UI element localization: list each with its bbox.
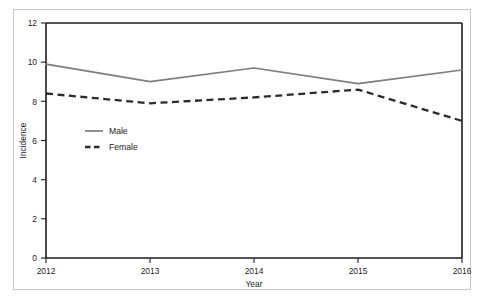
y-tick-label: 4	[32, 175, 37, 185]
y-tick-label: 8	[32, 97, 37, 107]
x-tick-label: 2013	[141, 266, 160, 276]
legend-label-male: Male	[109, 126, 128, 136]
y-tick-label: 2	[32, 214, 37, 224]
x-tick-label: 2014	[245, 266, 264, 276]
series-line-female	[46, 90, 462, 121]
chart-plot-area: 12 10 8 6 4 2 0 2012 2013 2014	[0, 0, 485, 303]
line-chart-svg: 12 10 8 6 4 2 0 2012 2013 2014	[0, 0, 485, 303]
y-tick-label: 10	[28, 57, 38, 67]
x-tick-label: 2012	[37, 266, 56, 276]
x-axis-tick-labels: 2012 2013 2014 2015 2016	[37, 266, 472, 276]
chart-legend: Male Female	[85, 126, 138, 152]
figure-container: 12 10 8 6 4 2 0 2012 2013 2014	[0, 0, 485, 303]
plot-frame	[46, 23, 462, 258]
y-tick-label: 6	[32, 136, 37, 146]
y-tick-label: 0	[32, 253, 37, 263]
y-axis-title: Incidence	[18, 122, 28, 158]
legend-label-female: Female	[109, 142, 138, 152]
y-tick-label: 12	[28, 18, 38, 28]
x-tick-label: 2016	[453, 266, 472, 276]
y-axis-tick-labels: 12 10 8 6 4 2 0	[28, 18, 38, 263]
series-line-male	[46, 64, 462, 84]
x-tick-label: 2015	[349, 266, 368, 276]
x-axis-title: Year	[246, 279, 263, 289]
